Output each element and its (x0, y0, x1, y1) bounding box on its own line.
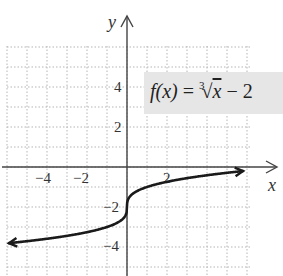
y-tick-label: −2 (103, 199, 119, 215)
equation-equals: = (183, 80, 194, 102)
x-tick-label: −4 (35, 170, 51, 186)
graph-canvas: y x −4 −2 2 4 2 −2 −4 (0, 0, 283, 276)
y-tick-label: 4 (114, 79, 122, 95)
y-tick-label: 2 (114, 119, 122, 135)
equation-lhs: f(x) (150, 80, 178, 102)
x-axis-label: x (267, 175, 276, 195)
equation-rest: − 2 (226, 80, 252, 102)
equation-radicand: x (213, 80, 222, 102)
y-tick-label: −4 (103, 238, 119, 254)
root-index: 3 (199, 79, 205, 91)
x-tick-label: −2 (73, 170, 89, 186)
equation-label: f(x) = 3√x − 2 (150, 80, 253, 103)
y-axis-label: y (106, 12, 116, 32)
